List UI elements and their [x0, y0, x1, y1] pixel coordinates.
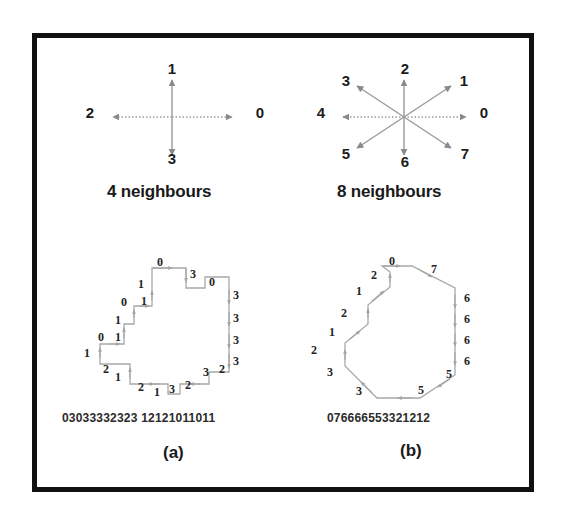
direction-label-8n-6: 6 [398, 153, 412, 170]
chain-code-string-b: 076666553321212 [327, 411, 430, 425]
contour-b-code-label: 2 [308, 344, 320, 356]
contour-b-code-label: 3 [353, 385, 365, 397]
contour-b-code-label: 2 [338, 307, 350, 319]
contour-b-code-label: 1 [326, 326, 338, 338]
contour-a-code-label: 1 [112, 314, 124, 326]
contour-a-code-label: 3 [200, 366, 212, 378]
contour-b-code-label: 6 [461, 292, 473, 304]
contour-a-code-label: 2 [182, 379, 194, 391]
contour-a-code-label: 0 [118, 296, 130, 308]
chain-code-figure: 0 1 2 3 0 1 2 3 4 5 6 7 4 neighbours 8 n… [0, 0, 561, 518]
contour-a-code-label: 3 [230, 289, 242, 301]
direction-label-8n-7: 7 [458, 145, 472, 162]
contour-a-code-label: 1 [81, 347, 93, 359]
contour-a-code-label: 2 [216, 363, 228, 375]
contour-b-code-label: 6 [461, 355, 473, 367]
contour-b-code-label: 7 [428, 263, 440, 275]
contour-a-code-label: 1 [138, 295, 150, 307]
contour-b-code-label: 5 [443, 368, 455, 380]
contour-a-code-label: 3 [230, 334, 242, 346]
contour-b-code-label: 1 [353, 285, 365, 297]
panel-title-4-neighbours: 4 neighbours [107, 182, 211, 202]
contour-b-code-label: 6 [461, 313, 473, 325]
contour-b-code-label: 0 [386, 255, 398, 267]
contour-b-code-label: 3 [324, 366, 336, 378]
contour-b-code-label: 2 [368, 269, 380, 281]
contour-a-code-label: 3 [166, 383, 178, 395]
contour-a-code-label: 3 [230, 355, 242, 367]
contour-a-code-label: 1 [135, 278, 147, 290]
direction-label-8n-1: 1 [457, 72, 471, 89]
panel-title-8-neighbours: 8 neighbours [337, 182, 441, 202]
contour-a-code-label: 3 [187, 268, 199, 280]
contour-b-code-label: 5 [415, 384, 427, 396]
direction-label-4n-3: 3 [165, 150, 179, 167]
subfigure-caption-b: (b) [400, 441, 422, 461]
contour-a-code-label: 0 [95, 331, 107, 343]
direction-label-8n-4: 4 [314, 104, 328, 121]
contour-a-code-label: 3 [230, 312, 242, 324]
contour-a-code-label: 1 [112, 331, 124, 343]
contour-a-code-label: 2 [100, 363, 112, 375]
direction-label-8n-0: 0 [477, 104, 491, 121]
contour-a-code-label: 1 [112, 371, 124, 383]
chain-code-string-a: 03033332323 12121011011 [62, 411, 215, 425]
direction-label-8n-5: 5 [339, 145, 353, 162]
direction-label-4n-0: 0 [253, 104, 267, 121]
contour-a-code-label: 2 [135, 381, 147, 393]
contour-b-code-label: 6 [461, 334, 473, 346]
contour-a-code-label: 1 [151, 386, 163, 398]
subfigure-caption-a: (a) [163, 443, 184, 463]
direction-label-4n-2: 2 [83, 104, 97, 121]
direction-label-4n-1: 1 [165, 60, 179, 77]
contour-a-code-label: 0 [206, 276, 218, 288]
contour-a-code-label: 0 [154, 256, 166, 268]
direction-label-8n-2: 2 [398, 60, 412, 77]
direction-label-8n-3: 3 [339, 72, 353, 89]
